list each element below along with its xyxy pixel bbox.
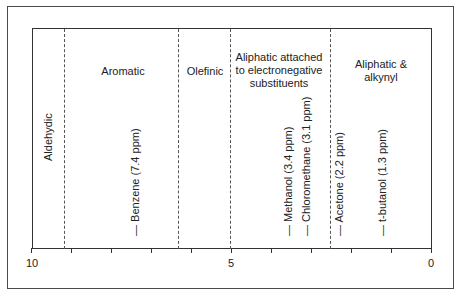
region-label-aromatic: Aromatic [101,65,144,78]
tick-6 [191,248,192,253]
marker-acetone: — Acetone (2.2 ppm) [333,132,345,236]
region-label-aliphatic-alkynyl: Aliphatic & alkynyl [355,58,407,84]
region-label-line: Aliphatic & [355,58,407,71]
ppm-axis [32,248,432,249]
divider-aliphatic-en-alkyl [330,29,331,249]
region-label-line: alkynyl [355,71,407,84]
region-label-olefinic: Olefinic [187,65,224,78]
region-label-line: Aliphatic attached [236,51,323,64]
tick-8 [111,248,112,253]
tick-4 [271,248,272,253]
marker-methanol: — Methanol (3.4 ppm) [282,127,294,236]
tick-9 [71,248,72,253]
tick-7 [151,248,152,253]
marker-benzene: — Benzene (7.4 ppm) [129,128,141,236]
marker-chloromethane: — Chloromethane (3.1 ppm) [300,97,312,236]
region-label-aldehydic: Aldehydic [42,113,54,161]
tick-2 [351,248,352,253]
region-label-line: substituents [236,77,323,90]
tick-label-5: 5 [228,257,234,269]
tick-0 [431,248,432,253]
tick-5 [231,248,232,253]
divider-olefinic-aliphatic-en [230,29,231,249]
divider-aromatic-olefinic [178,29,179,249]
tick-label-0: 0 [428,257,434,269]
marker-t-butanol: — t-butanol (1.3 ppm) [376,129,388,236]
region-label-aliphatic-electronegative: Aliphatic attached to electronegative su… [236,51,323,90]
tick-3 [311,248,312,253]
divider-aldehydic-aromatic [64,29,65,249]
tick-10 [31,248,32,253]
region-label-line: to electronegative [236,64,323,77]
tick-label-10: 10 [26,257,38,269]
tick-1 [391,248,392,253]
